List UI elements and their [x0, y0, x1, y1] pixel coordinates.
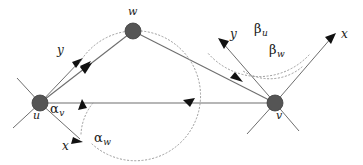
axis-u-x-arrowhead	[71, 137, 83, 144]
angle-symbol-alpha-v: α	[50, 101, 59, 116]
edge-w-v-arrowhead	[230, 72, 243, 82]
geometry-diagram: u w v y x y x αv αw βu βw	[0, 0, 363, 165]
angle-label-beta-u: βu	[254, 22, 268, 38]
node-label-u: u	[33, 110, 40, 121]
axis-u-y-line	[40, 60, 81, 103]
axis-label-u-x: x	[62, 140, 69, 152]
arc-beta-u	[207, 52, 309, 77]
angle-arcs-v	[207, 52, 309, 79]
diagram-canvas	[0, 0, 363, 165]
axis-label-v-y: y	[230, 28, 237, 40]
nodes-group	[32, 23, 283, 111]
edges-group	[40, 31, 275, 107]
node-label-v: v	[276, 110, 282, 121]
axis-label-v-x: x	[341, 28, 348, 40]
angle-symbol-beta-u: β	[254, 21, 262, 36]
angle-subscript-alpha-v: v	[59, 108, 64, 118]
arc-marker-u-lower	[78, 99, 87, 110]
angle-label-alpha-w: αw	[94, 131, 111, 147]
angle-subscript-beta-u: u	[262, 28, 268, 38]
angle-symbol-alpha-w: α	[94, 130, 103, 145]
angle-subscript-beta-w: w	[277, 49, 285, 59]
axis-v-x-arrowhead	[325, 33, 336, 44]
angle-label-alpha-v: αv	[50, 102, 64, 118]
angle-label-beta-w: βw	[269, 43, 285, 59]
axis-label-u-y: y	[57, 44, 64, 56]
angle-symbol-beta-w: β	[269, 42, 277, 57]
axis-v-y-arrowhead	[218, 38, 229, 49]
angle-subscript-alpha-w: w	[103, 137, 111, 147]
node-w[interactable]	[125, 23, 141, 39]
edge-w-v	[133, 31, 275, 103]
node-label-w: w	[128, 6, 137, 17]
axis-v-y-line	[222, 42, 275, 103]
